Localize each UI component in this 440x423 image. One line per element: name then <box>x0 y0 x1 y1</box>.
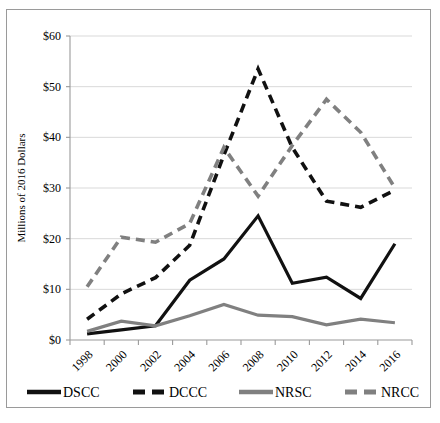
legend-label-nrsc: NRSC <box>275 385 312 400</box>
line-chart-canvas: $0$10$20$30$40$50$60 1998200020022004200… <box>0 0 440 423</box>
x-axis-tick-label: 2014 <box>342 348 369 375</box>
series-line-dscc <box>87 216 395 334</box>
y-axis-tick-label: $20 <box>43 232 61 246</box>
x-axis-tick-label: 2010 <box>274 348 301 375</box>
data-series-group <box>87 69 395 334</box>
y-axis-tick-label: $0 <box>49 333 61 347</box>
x-axis-tick-label: 2012 <box>308 348 335 375</box>
x-axis-tick-label: 2006 <box>206 348 233 375</box>
legend-label-dccc: DCCC <box>169 385 207 400</box>
y-axis-tick-labels-group: $0$10$20$30$40$50$60 <box>43 29 61 347</box>
y-axis-tick-label: $10 <box>43 282 61 296</box>
y-axis-tick-label: $40 <box>43 130 61 144</box>
legend-label-dscc: DSCC <box>63 385 100 400</box>
chart-legend: DSCCDCCCNRSCNRCC <box>27 385 419 400</box>
x-axis-tick-label: 1998 <box>69 348 96 375</box>
gridlines-group <box>70 36 412 289</box>
series-line-nrcc <box>87 99 395 286</box>
x-axis-tick-label: 2016 <box>377 348 404 375</box>
x-axis-ticks-group <box>70 340 412 345</box>
legend-label-nrcc: NRCC <box>381 385 419 400</box>
chart-figure: $0$10$20$30$40$50$60 1998200020022004200… <box>0 0 440 423</box>
y-axis-tick-label: $30 <box>43 181 61 195</box>
x-axis-tick-label: 2000 <box>103 348 130 375</box>
y-axis-tick-label: $50 <box>43 80 61 94</box>
x-axis-tick-label: 2002 <box>137 348 164 375</box>
x-axis-tick-label: 2004 <box>171 348 198 375</box>
y-axis-tick-label: $60 <box>43 29 61 43</box>
x-axis-tick-labels-group: 1998200020022004200620082010201220142016 <box>69 348 404 375</box>
x-axis-tick-label: 2008 <box>240 348 267 375</box>
y-axis-title: Millions of 2016 Dollars <box>15 133 27 242</box>
series-line-dccc <box>87 69 395 319</box>
y-axis-ticks-group <box>66 36 70 340</box>
